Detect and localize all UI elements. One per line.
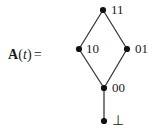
node-label-perp: ⊥ [112, 114, 124, 128]
node-label-01: 01 [135, 42, 148, 55]
lattice-node-middle [101, 85, 107, 91]
lattice-node-right [124, 46, 130, 52]
lattice-node-left [76, 46, 82, 52]
node-label-10: 10 [86, 42, 99, 55]
lattice-node-top [100, 7, 106, 13]
figure-root: A(t)= 11 10 01 00 ⊥ [0, 0, 156, 137]
node-label-00: 00 [112, 81, 125, 94]
lattice-diagram [0, 0, 156, 137]
nodes-group [76, 7, 130, 124]
node-label-11: 11 [111, 3, 124, 16]
lattice-node-bottom [101, 118, 107, 124]
edges-group [79, 10, 127, 121]
